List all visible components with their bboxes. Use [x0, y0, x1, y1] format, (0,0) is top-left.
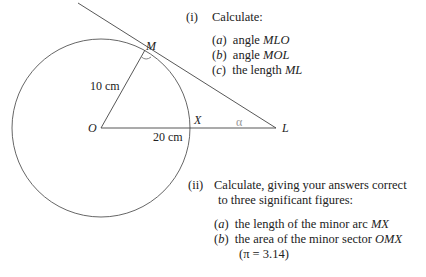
question-part-ii: (ii)Calculate, giving your answers corre… — [188, 178, 407, 193]
point-label-M: M — [146, 40, 156, 52]
radius-label: 10 cm — [90, 80, 120, 92]
part-ii-instruction-line2: to three significant figures: — [218, 193, 353, 208]
part-i-item-c: (c) the length ML — [212, 63, 302, 78]
part-i-item-a: (a) angle MLO — [212, 33, 302, 48]
part-i-item-b: (b) angle MOL — [212, 48, 302, 63]
part-ii-items: (a) the length of the minor arc MX (b) t… — [214, 217, 402, 262]
point-label-L: L — [282, 122, 289, 134]
part-ii-number: (ii) — [188, 178, 214, 193]
pi-note: (π = 3.14) — [214, 247, 402, 262]
point-label-X: X — [194, 114, 201, 126]
distance-label-OL: 20 cm — [153, 131, 183, 143]
point-label-O: O — [88, 122, 97, 134]
part-i-number: (i) — [186, 10, 212, 25]
right-angle-mark — [142, 57, 152, 59]
angle-alpha-label: α — [236, 116, 242, 128]
question-part-i: (i)Calculate: — [186, 10, 263, 25]
part-i-instruction: Calculate: — [212, 10, 263, 24]
part-i-items: (a) angle MLO (b) angle MOL (c) the leng… — [212, 33, 302, 78]
part-ii-item-b: (b) the area of the minor sector OMX — [214, 232, 402, 247]
part-ii-instruction-line1: Calculate, giving your answers correct — [214, 178, 407, 192]
part-ii-item-a: (a) the length of the minor arc MX — [214, 217, 402, 232]
